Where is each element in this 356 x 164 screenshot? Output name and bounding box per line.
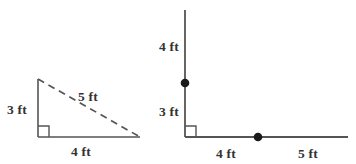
figure-canvas: 3 ft 5 ft 4 ft 4 ft 3 ft 4 ft 5 ft bbox=[0, 0, 356, 164]
axes-vertical-lower-label: 3 ft bbox=[159, 104, 179, 119]
axes-vertical-upper-label: 4 ft bbox=[159, 39, 179, 54]
axes-right-angle-icon bbox=[185, 126, 196, 137]
point-on-vertical-ray-icon bbox=[181, 79, 190, 88]
point-on-horizontal-ray-icon bbox=[254, 133, 263, 142]
triangle-horizontal-leg-label: 4 ft bbox=[71, 144, 91, 159]
geometry-illustration: 3 ft 5 ft 4 ft 4 ft 3 ft 4 ft 5 ft bbox=[0, 0, 356, 164]
triangle-hypotenuse-dashed bbox=[38, 79, 140, 137]
axes-horizontal-right-label: 5 ft bbox=[298, 146, 318, 161]
triangle-right-angle-icon bbox=[38, 126, 49, 137]
axes-horizontal-left-label: 4 ft bbox=[216, 146, 236, 161]
triangle-vertical-leg-label: 3 ft bbox=[7, 102, 27, 117]
triangle-hypotenuse-label: 5 ft bbox=[78, 89, 98, 104]
left-triangle-figure: 3 ft 5 ft 4 ft bbox=[7, 79, 140, 159]
right-axes-figure: 4 ft 3 ft 4 ft 5 ft bbox=[159, 10, 348, 161]
